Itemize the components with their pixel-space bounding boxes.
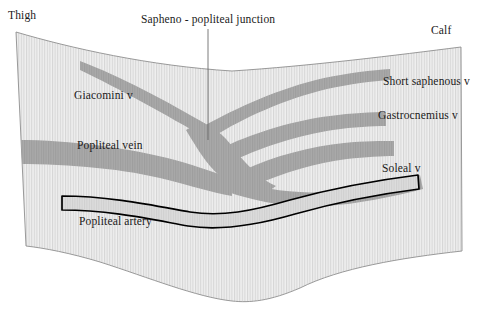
label-sapheno-popliteal-junction: Sapheno - popliteal junction [141,14,275,26]
anatomy-diagram [0,0,486,314]
label-thigh: Thigh [8,10,36,22]
label-popliteal-artery: Popliteal artery [79,216,152,228]
label-giacomini-vein: Giacomini v [74,90,133,102]
label-popliteal-vein: Popliteal vein [77,140,143,152]
label-gastrocnemius-vein: Gastrocnemius v [378,110,458,122]
label-short-saphenous-vein: Short saphenous v [383,76,470,88]
label-calf: Calf [431,25,451,37]
label-soleal-vein: Soleal v [382,163,421,175]
